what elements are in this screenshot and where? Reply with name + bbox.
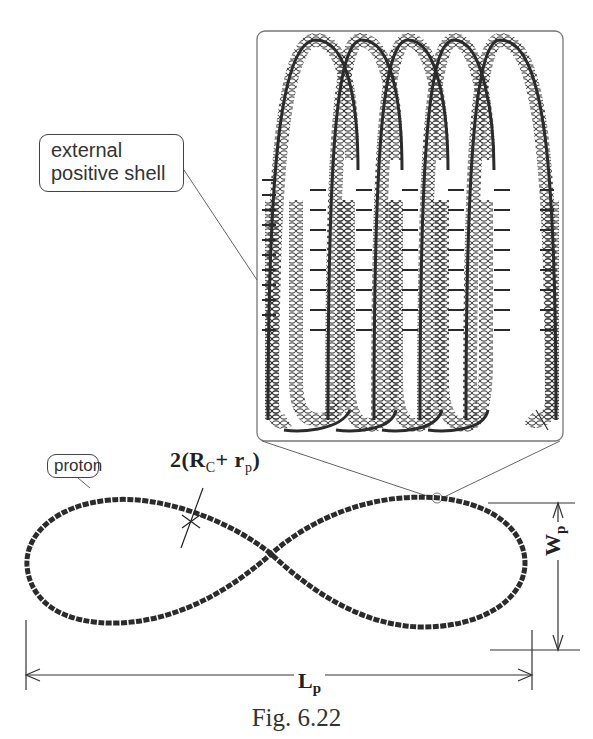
- external-positive-shell-label: external positive shell: [39, 134, 184, 192]
- radius-suffix: ): [252, 447, 260, 472]
- radius-sub-c: C: [206, 460, 216, 475]
- radius-mid: + r: [216, 447, 245, 472]
- figure-caption: Fig. 6.22: [0, 704, 593, 732]
- width-label: Wp: [540, 522, 569, 560]
- radius-formula-label: 2(RC+ rp): [170, 447, 260, 476]
- length-main: L: [298, 668, 313, 693]
- proton-label: proton: [47, 454, 99, 478]
- proton-figure-eight: [27, 497, 525, 627]
- length-dimension: [26, 620, 532, 690]
- thickness-marker: [181, 488, 203, 548]
- width-sub: p: [552, 526, 568, 534]
- width-main: W: [540, 534, 565, 556]
- shell-label-line2: positive shell: [51, 162, 183, 185]
- length-label: Lp: [294, 668, 325, 697]
- shell-label-line1: external: [51, 139, 183, 162]
- figure-canvas: [0, 0, 593, 739]
- radius-prefix: 2(R: [170, 447, 206, 472]
- length-sub: p: [313, 680, 321, 696]
